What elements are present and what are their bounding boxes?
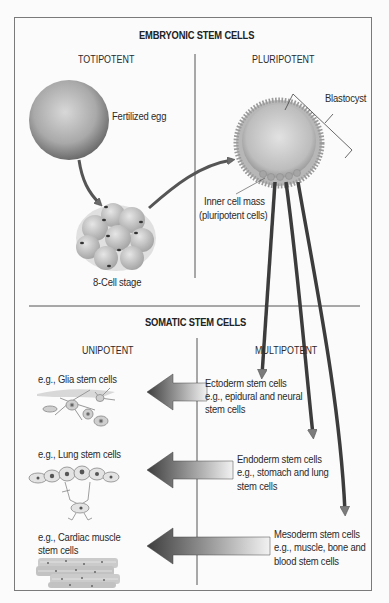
glia-label: e.g., Glia stem cells bbox=[38, 373, 117, 387]
endoderm-label-line1: Endoderm stem cells bbox=[237, 453, 322, 467]
ectoderm-label-line1: Ectoderm stem cells bbox=[205, 377, 287, 391]
endoderm-label-line3: stem cells bbox=[237, 480, 277, 494]
glia-cells-icon bbox=[37, 388, 115, 426]
mesoderm-label-line3: blood stem cells bbox=[274, 555, 339, 569]
lung-label: e.g., Lung stem cells bbox=[38, 448, 121, 462]
blastocyst-label: Blastocyst bbox=[325, 92, 366, 106]
mesoderm-label-line2: e.g., muscle, bone and bbox=[274, 541, 366, 555]
eight-cell-label: 8-Cell stage bbox=[93, 276, 141, 290]
mesoderm-label-line1: Mesoderm stem cells bbox=[274, 528, 360, 542]
cardiac-muscle-cells-icon bbox=[36, 558, 120, 588]
unipotent-heading: UNIPOTENT bbox=[82, 344, 134, 356]
diagram-artwork bbox=[0, 0, 389, 603]
totipotent-heading: TOTIPOTENT bbox=[78, 53, 134, 65]
somatic-title: SOMATIC STEM CELLS bbox=[145, 316, 246, 328]
blastocyst-icon bbox=[236, 100, 322, 186]
mesoderm-to-cardiac-arrow bbox=[147, 528, 270, 564]
inner-cell-mass-sublabel: (pluripotent cells) bbox=[199, 209, 268, 223]
egg-to-8cell-arrow bbox=[79, 160, 100, 204]
inner-cell-mass-pointer bbox=[236, 178, 265, 194]
ectoderm-label-line3: stem cells bbox=[205, 403, 245, 417]
fertilized-egg-icon bbox=[29, 80, 109, 160]
endoderm-label-line2: e.g., stomach and lung bbox=[237, 466, 329, 480]
endoderm-to-lung-arrow bbox=[147, 452, 233, 488]
inner-cell-mass-label: Inner cell mass bbox=[204, 195, 265, 209]
multipotent-heading: MULTIPOTENT bbox=[255, 344, 317, 356]
cardiac-label-line1: e.g., Cardiac muscle bbox=[38, 531, 121, 545]
fertilized-egg-label: Fertilized egg bbox=[112, 110, 166, 124]
cardiac-label-line2: stem cells bbox=[38, 544, 78, 558]
lung-cells-icon bbox=[29, 466, 119, 520]
pluripotent-heading: PLURIPOTENT bbox=[252, 53, 314, 65]
embryonic-title: EMBRYONIC STEM CELLS bbox=[139, 29, 254, 41]
ectoderm-to-glia-arrow bbox=[147, 374, 207, 410]
eight-cell-icon bbox=[76, 203, 156, 271]
ectoderm-label-line2: e.g., epidural and neural bbox=[205, 390, 302, 404]
